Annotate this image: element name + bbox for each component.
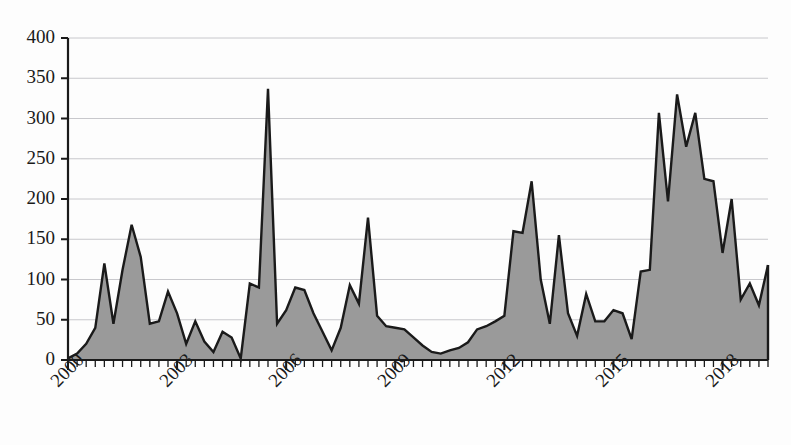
y-tick-label: 350 <box>0 66 55 88</box>
y-tick-label: 250 <box>0 147 55 169</box>
y-tick-label: 0 <box>0 348 55 370</box>
y-tick-label: 150 <box>0 227 55 249</box>
y-tick-label: 400 <box>0 26 55 48</box>
y-tick-label: 50 <box>0 308 55 330</box>
y-tick-label: 100 <box>0 268 55 290</box>
y-tick-label: 300 <box>0 107 55 129</box>
area-chart: 050100150200250300350400 200020032006200… <box>0 0 791 445</box>
y-tick-label: 200 <box>0 187 55 209</box>
